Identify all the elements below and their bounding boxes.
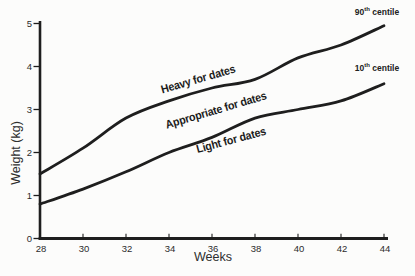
x-tick-label: 38 bbox=[251, 243, 262, 254]
x-tick-label: 44 bbox=[380, 243, 391, 254]
y-tick-label: 1 bbox=[14, 190, 32, 201]
series-label-90-num: 90 bbox=[355, 7, 364, 17]
series-label-10-rest: centile bbox=[372, 63, 399, 73]
series-label-90-rest: centile bbox=[372, 7, 399, 17]
growth-centile-chart: Weight (kg) Weeks Heavy for dates Approp… bbox=[0, 0, 415, 276]
x-tick-label: 30 bbox=[79, 243, 90, 254]
y-tick-label: 3 bbox=[14, 104, 32, 115]
series-label-90th-centile: 90th centile bbox=[347, 7, 407, 17]
series-label-10-sup: th bbox=[364, 62, 370, 68]
series-label-10th-centile: 10th centile bbox=[347, 63, 407, 73]
x-tick-label: 40 bbox=[294, 243, 305, 254]
x-tick-label: 42 bbox=[337, 243, 348, 254]
series-label-10-num: 10 bbox=[355, 63, 364, 73]
y-tick-label: 2 bbox=[14, 147, 32, 158]
x-tick-label: 32 bbox=[122, 243, 133, 254]
series-label-90-sup: th bbox=[364, 6, 370, 12]
y-tick-label: 5 bbox=[14, 18, 32, 29]
x-tick-label: 34 bbox=[165, 243, 176, 254]
y-tick-label: 4 bbox=[14, 61, 32, 72]
series-line-90th-centile bbox=[40, 26, 384, 174]
chart-canvas bbox=[0, 0, 415, 276]
x-tick-label: 28 bbox=[36, 243, 47, 254]
x-tick-label: 36 bbox=[208, 243, 219, 254]
y-tick-label: 0 bbox=[14, 233, 32, 244]
